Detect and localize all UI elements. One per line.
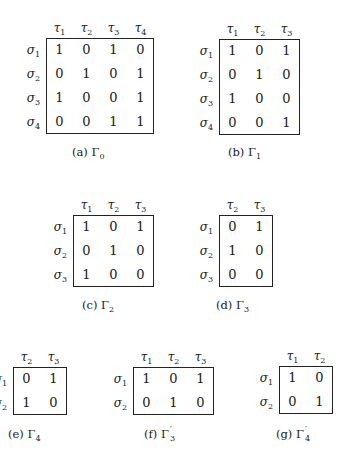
matrix-cell: 0 — [100, 62, 127, 86]
matrix-cell: 1 — [246, 215, 273, 239]
row-index: 2 — [35, 74, 40, 83]
matrix-cell: 1 — [279, 366, 306, 390]
matrix-cell: 0 — [127, 239, 154, 263]
matrix-cell: 0 — [133, 391, 160, 415]
gamma-symbol: Γ — [236, 298, 244, 312]
matrix-cell: 0 — [73, 110, 100, 134]
column-header: τ2 — [219, 198, 246, 212]
subfigure-caption: (b) Γ1 — [228, 145, 261, 159]
caption-index: 3 — [170, 434, 175, 443]
row-index: 2 — [208, 75, 213, 84]
column-index: 2 — [114, 205, 119, 214]
column-header: τ3 — [127, 198, 154, 212]
matrix-cell: 1 — [73, 263, 100, 287]
row-header: σ1 — [18, 38, 40, 64]
sigma-symbol: σ — [200, 44, 208, 58]
row-index: 3 — [208, 99, 213, 108]
caption-script-stack: ′4 — [304, 427, 311, 439]
column-header: τ2 — [13, 350, 40, 364]
row-index: 3 — [208, 275, 213, 284]
matrix-cell: 0 — [219, 263, 246, 287]
row-header: σ3 — [191, 87, 213, 113]
matrix-cell: 0 — [100, 215, 127, 239]
matrix-cell: 1 — [46, 86, 73, 110]
column-index: 2 — [320, 356, 325, 365]
column-index: 3 — [287, 29, 292, 38]
matrix-cell: 0 — [100, 263, 127, 287]
row-index: 2 — [122, 403, 127, 412]
column-index: 2 — [260, 29, 265, 38]
row-index: 2 — [208, 251, 213, 260]
matrix-cell: 1 — [219, 39, 246, 63]
matrix-cell: 1 — [100, 110, 127, 134]
sigma-symbol: σ — [200, 92, 208, 106]
matrix-cell: 0 — [46, 62, 73, 86]
column-index: 2 — [233, 205, 238, 214]
column-header: τ4 — [127, 21, 154, 35]
column-header: τ1 — [73, 198, 100, 212]
row-header: σ2 — [18, 62, 40, 88]
row-header: σ3 — [45, 263, 67, 289]
column-index: 3 — [141, 205, 146, 214]
row-index: 1 — [2, 379, 7, 388]
sigma-symbol: σ — [114, 396, 122, 410]
column-header: τ3 — [100, 21, 127, 35]
column-index: 4 — [141, 28, 146, 37]
matrix-cell: 0 — [100, 86, 127, 110]
column-header: τ2 — [306, 349, 333, 363]
caption-label: (d) — [216, 298, 232, 312]
sigma-symbol: σ — [27, 91, 35, 105]
column-header: τ1 — [133, 350, 160, 364]
matrix-cell: 1 — [46, 38, 73, 62]
row-index: 2 — [2, 403, 7, 412]
row-header: σ2 — [191, 239, 213, 265]
column-index: 3 — [114, 28, 119, 37]
row-index: 1 — [268, 378, 273, 387]
matrix-cell: 0 — [273, 63, 300, 87]
matrix-cell: 1 — [127, 62, 154, 86]
sigma-symbol: σ — [114, 372, 122, 386]
column-index: 1 — [233, 29, 238, 38]
subfigure-caption: (c) Γ2 — [82, 298, 114, 312]
sigma-symbol: σ — [200, 244, 208, 258]
column-index: 1 — [293, 356, 298, 365]
row-index: 3 — [35, 98, 40, 107]
matrix-cell: 1 — [219, 87, 246, 111]
matrix-cell: 0 — [246, 239, 273, 263]
matrix-cell: 1 — [13, 391, 40, 415]
matrix-cell: 0 — [246, 263, 273, 287]
gamma-symbol: Γ — [101, 298, 109, 312]
row-index: 4 — [35, 122, 40, 131]
matrix-cell: 1 — [127, 215, 154, 239]
gamma-symbol: Γ — [161, 427, 169, 441]
row-header: σ1 — [191, 39, 213, 65]
row-index: 4 — [208, 123, 213, 132]
caption-label: (f) — [144, 427, 157, 441]
matrix-cell: 0 — [306, 366, 333, 390]
row-header: σ4 — [191, 111, 213, 137]
matrix-cell: 1 — [127, 110, 154, 134]
column-header: τ3 — [187, 350, 214, 364]
matrix-cell: 0 — [187, 391, 214, 415]
matrix-cell: 1 — [273, 111, 300, 135]
row-index: 1 — [208, 227, 213, 236]
column-index: 3 — [54, 357, 59, 366]
caption-index: 4 — [35, 434, 40, 443]
gamma-symbol: Γ — [296, 427, 304, 441]
column-header: τ2 — [160, 350, 187, 364]
matrix-cell: 0 — [73, 86, 100, 110]
matrix-cell: 1 — [306, 390, 333, 414]
column-header: τ2 — [246, 22, 273, 36]
matrix-cell: 0 — [246, 39, 273, 63]
row-header: σ2 — [251, 390, 273, 416]
sigma-symbol: σ — [200, 220, 208, 234]
matrix-cell: 1 — [219, 239, 246, 263]
caption-label: (c) — [82, 298, 97, 312]
row-index: 1 — [208, 51, 213, 60]
matrix-cell: 1 — [127, 86, 154, 110]
row-index: 1 — [122, 379, 127, 388]
matrix-cell: 0 — [73, 239, 100, 263]
gamma-symbol: Γ — [248, 145, 256, 159]
column-index: 1 — [60, 28, 65, 37]
sigma-symbol: σ — [200, 116, 208, 130]
